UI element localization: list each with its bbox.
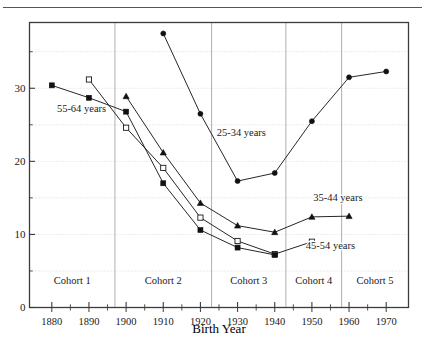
- y-tick-label-10: 10: [15, 228, 27, 240]
- y-tick-label-0: 0: [20, 301, 26, 313]
- marker-55-64-years-1910: [161, 181, 166, 186]
- x-axis-title: Birth Year: [192, 321, 246, 336]
- marker-25-34-years-1940: [272, 171, 277, 176]
- x-tick-label-1950: 1950: [301, 316, 322, 327]
- chart-canvas: 0102030 18801890190019101920193019401950…: [0, 0, 425, 337]
- marker-55-64-years-1900: [124, 109, 129, 114]
- marker-45-54-years-1930: [235, 238, 240, 243]
- marker-25-34-years-1920: [198, 111, 203, 116]
- marker-25-34-years-1910: [161, 31, 166, 36]
- cohort-label-3: Cohort 3: [230, 275, 267, 286]
- marker-55-64-years-1890: [86, 95, 91, 100]
- cohort-label-2: Cohort 2: [145, 275, 182, 286]
- y-tick-label-30: 30: [15, 82, 27, 94]
- y-tick-label-20: 20: [15, 155, 27, 167]
- annotation-55-64-years: 55-64 years: [57, 103, 106, 114]
- marker-25-34-years-1970: [384, 69, 389, 74]
- marker-45-54-years-1920: [198, 215, 203, 220]
- chart-background: [0, 0, 425, 337]
- x-tick-label-1940: 1940: [264, 316, 285, 327]
- x-tick-label-1880: 1880: [41, 316, 62, 327]
- marker-25-34-years-1960: [347, 75, 352, 80]
- x-axis-title-group: Birth Year: [192, 321, 246, 336]
- x-tick-label-1960: 1960: [339, 316, 360, 327]
- header-rule: [3, 7, 422, 8]
- x-tick-label-1900: 1900: [116, 316, 137, 327]
- annotation-25-34-years: 25-34 years: [217, 127, 266, 138]
- marker-45-54-years-1910: [161, 165, 166, 170]
- cohort-label-5: Cohort 5: [357, 275, 394, 286]
- marker-55-64-years-1940: [272, 252, 277, 257]
- marker-25-34-years-1930: [235, 179, 240, 184]
- x-tick-label-1910: 1910: [153, 316, 174, 327]
- cohort-label-1: Cohort 1: [54, 275, 91, 286]
- x-tick-label-1970: 1970: [376, 316, 397, 327]
- marker-45-54-years-1890: [86, 77, 91, 82]
- annotation-35-44-years: 35-44 years: [313, 192, 362, 203]
- annotation-45-54-years: 45-54 years: [306, 240, 355, 251]
- marker-55-64-years-1880: [49, 83, 54, 88]
- marker-25-34-years-1950: [309, 119, 314, 124]
- marker-45-54-years-1900: [124, 125, 129, 130]
- marker-55-64-years-1930: [235, 245, 240, 250]
- cohort-label-4: Cohort 4: [295, 275, 333, 286]
- x-tick-label-1890: 1890: [78, 316, 99, 327]
- marker-55-64-years-1920: [198, 228, 203, 233]
- birth-year-chart: 0102030 18801890190019101920193019401950…: [0, 0, 425, 337]
